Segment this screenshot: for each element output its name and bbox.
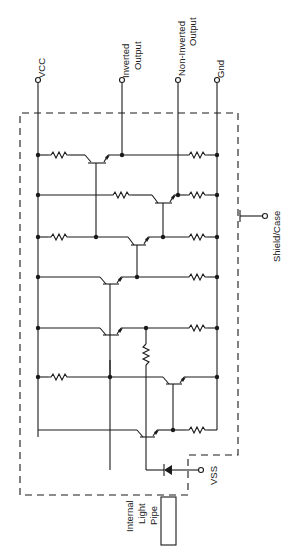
top-leads <box>38 83 217 437</box>
circuit-schematic: VCC Inverted Output Non-Inverted Output … <box>0 0 293 551</box>
stage-6 <box>38 360 217 430</box>
vss-label: VSS <box>208 466 219 485</box>
stage-7 <box>38 427 217 437</box>
inverted-output-label-1: Inverted <box>120 44 131 78</box>
stage-3 <box>38 234 217 277</box>
shield-case-label: Shield/Case <box>271 211 282 262</box>
light-pipe-label-1: Internal <box>124 500 135 532</box>
inverted-output-label-2: Output <box>132 41 143 70</box>
non-inverted-output-label-2: Output <box>187 17 198 46</box>
gnd-label: Gnd <box>215 60 226 78</box>
gnd-terminal: Gnd <box>215 60 227 82</box>
stage-4 <box>38 274 217 470</box>
photodiode <box>146 464 198 476</box>
light-pipe-label-2: Light <box>136 503 147 524</box>
stage-5 <box>38 325 217 470</box>
vss-terminal: VSS <box>199 466 220 485</box>
inverted-output-terminal: Inverted Output <box>120 41 144 82</box>
vcc-label: VCC <box>36 58 47 78</box>
internal-light-pipe: Internal Light Pipe <box>124 497 176 545</box>
shield-case-terminal: Shield/Case <box>238 210 282 262</box>
vcc-terminal: VCC <box>36 58 48 83</box>
package-enclosure <box>20 113 238 495</box>
non-inverted-output-terminal: Non-Inverted Output <box>176 17 199 82</box>
stage-2 <box>38 192 217 237</box>
non-inverted-output-label-1: Non-Inverted <box>176 21 187 76</box>
light-pipe-label-3: Pipe <box>148 506 159 525</box>
